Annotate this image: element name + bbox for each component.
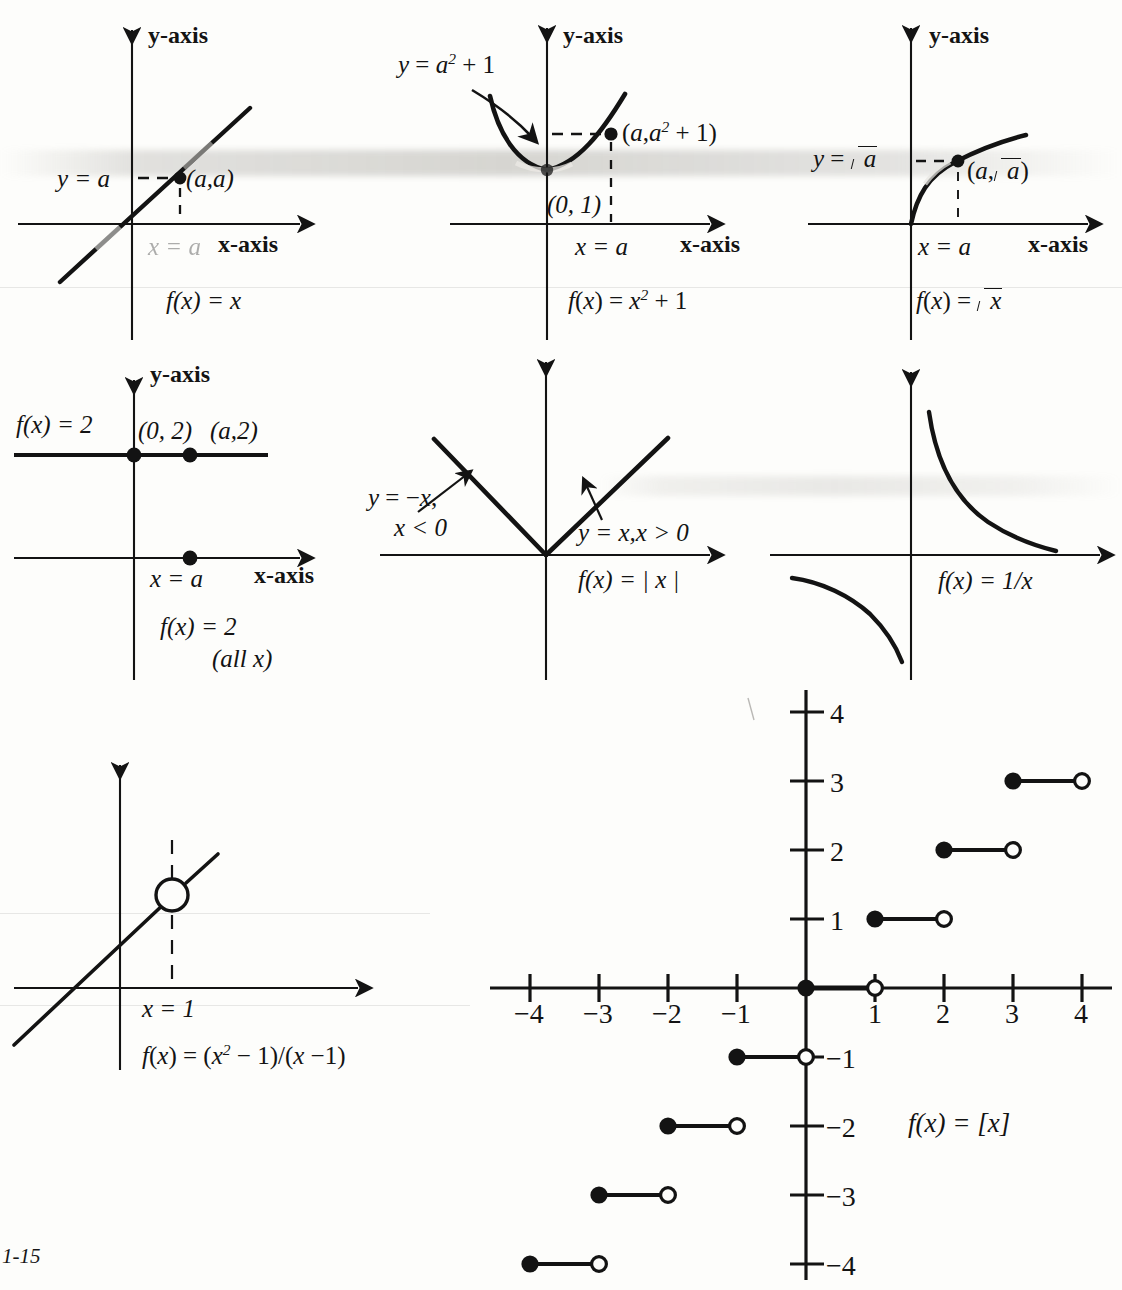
step-segment--4 <box>521 1255 606 1272</box>
step-segment-1 <box>866 910 951 927</box>
step-segment--2 <box>659 1117 744 1134</box>
panel4-caption-second-line: (all x) <box>212 646 272 671</box>
sqrt-curve-fade <box>925 162 950 184</box>
panel8-caption: f(x) = [x] <box>908 1110 1010 1137</box>
step-segment-3 <box>1004 772 1089 789</box>
panel4-caption: f(x) = 2 <box>160 614 237 639</box>
step-x-tick-label-2: 2 <box>936 1000 950 1028</box>
step-segment--3 <box>590 1186 675 1203</box>
figure-number: 1-15 <box>2 1246 41 1267</box>
scan-scratch-mark <box>748 698 754 720</box>
panel4-x-axis-label: x-axis <box>254 563 314 587</box>
panel3-y-value-label: y = a <box>813 146 877 171</box>
step-y-tick-label--4: −4 <box>826 1252 856 1280</box>
panel4-y-axis-label: y-axis <box>150 362 210 386</box>
figure-page: y-axis x-axis y = a (a,a) x = a f(x) = x… <box>0 0 1122 1290</box>
panel2-x-axis-label: x-axis <box>680 232 740 256</box>
point-x-equals-a <box>183 551 198 566</box>
reciprocal-lower-branch <box>792 578 902 662</box>
panel5-left-branch-label-line2: x < 0 <box>394 515 447 540</box>
panel1-x-value-label: x = a <box>148 234 201 259</box>
step-x-tick-label--4: −4 <box>514 1000 544 1028</box>
panel4-line-label: f(x) = 2 <box>16 412 93 437</box>
panel3-caption: f(x) = x <box>916 288 1002 313</box>
point-a-a <box>174 172 187 185</box>
panel-greatest-integer-graph <box>480 680 1122 1290</box>
step-x-tick-label--2: −2 <box>652 1000 682 1028</box>
hole-open-circle <box>156 879 188 911</box>
discontinuous-line-right <box>186 854 218 883</box>
panel2-y-axis-label: y-axis <box>563 23 623 47</box>
step-x-tick-label-4: 4 <box>1074 1000 1088 1028</box>
point-0-2 <box>127 448 142 463</box>
panel1-y-axis-label: y-axis <box>148 23 208 47</box>
panel1-x-axis-label: x-axis <box>218 232 278 256</box>
panel2-curve-label: y = a2 + 1 <box>398 52 495 77</box>
point-0-1 <box>541 164 553 176</box>
point-a-sqrta <box>952 155 965 168</box>
panel2-caption: f(x) = x2 + 1 <box>568 288 687 313</box>
panel2-vertex-label: (0, 1) <box>547 192 601 217</box>
step-y-tick-label--1: −1 <box>826 1045 856 1073</box>
step-segment-2 <box>935 841 1020 858</box>
panel3-y-axis-label: y-axis <box>929 23 989 47</box>
step-x-tick-label--1: −1 <box>721 1000 751 1028</box>
panel1-point-label: (a,a) <box>186 166 234 191</box>
panel1-caption: f(x) = x <box>166 288 241 313</box>
step-x-tick-label--3: −3 <box>583 1000 613 1028</box>
panel2-x-value-label: x = a <box>575 234 628 259</box>
panel1-y-value-label: y = a <box>57 166 110 191</box>
panel4-x-value-label: x = a <box>150 566 203 591</box>
reciprocal-upper-branch <box>929 412 1056 551</box>
step-y-tick-label-3: 3 <box>830 769 844 797</box>
step-x-tick-label-3: 3 <box>1005 1000 1019 1028</box>
panel-reciprocal-graph <box>770 350 1122 680</box>
panel3-x-value-label: x = a <box>918 234 971 259</box>
panel6-caption: f(x) = 1/x <box>938 568 1033 593</box>
step-y-tick-label--2: −2 <box>826 1114 856 1142</box>
panel3-point-label: (a,a) <box>967 158 1029 183</box>
step-y-tick-label-2: 2 <box>830 838 844 866</box>
step-y-tick-label--3: −3 <box>826 1183 856 1211</box>
discontinuous-line-left <box>14 903 165 1045</box>
step-y-tick-label-1: 1 <box>830 907 844 935</box>
panel7-caption: f(x) = (x2 − 1)/(x −1) <box>142 1043 346 1068</box>
panel5-left-branch-label-line1: y = −x, <box>368 485 437 510</box>
panel3-x-axis-label: x-axis <box>1028 232 1088 256</box>
panel7-hole-label: x = 1 <box>142 996 195 1021</box>
step-segment--1 <box>728 1048 813 1065</box>
step-segment-0 <box>797 979 882 996</box>
panel5-caption: f(x) = | x | <box>578 567 679 592</box>
identity-line-fade <box>96 227 120 249</box>
point-a-2 <box>183 448 198 463</box>
panel4-y-intercept-label: (0, 2) <box>138 418 192 443</box>
panel2-point-label: (a,a2 + 1) <box>622 120 717 145</box>
step-y-tick-label-4: 4 <box>830 700 844 728</box>
panel5-right-branch-label: y = x,x > 0 <box>578 520 689 545</box>
point-a-a2plus1 <box>604 127 617 140</box>
panel4-point-label: (a,2) <box>210 418 258 443</box>
abs-left-branch <box>434 439 546 555</box>
panel-removable-discontinuity-graph <box>0 740 420 1080</box>
step-x-tick-label-1: 1 <box>868 1000 882 1028</box>
